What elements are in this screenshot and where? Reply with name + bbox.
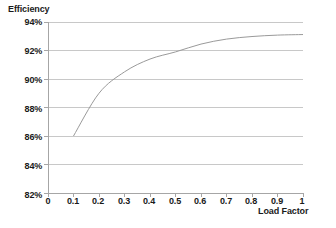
efficiency-series-line <box>74 35 304 136</box>
plot-area <box>0 0 336 228</box>
axis-ticks <box>44 22 303 197</box>
efficiency-vs-load-factor-chart: Efficiency Load Factor 94% 92% 90% 88% 8… <box>0 0 336 228</box>
gridlines <box>48 22 303 193</box>
